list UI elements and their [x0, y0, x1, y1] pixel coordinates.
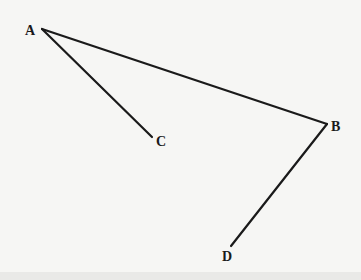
segment-ab — [42, 29, 327, 124]
point-label-c: C — [156, 134, 166, 149]
segment-bd — [231, 124, 327, 246]
point-label-b: B — [331, 119, 340, 134]
point-label-a: A — [25, 23, 36, 38]
point-label-d: D — [222, 249, 232, 264]
segment-ac — [42, 29, 152, 137]
geometry-diagram: A B C D — [0, 0, 361, 280]
